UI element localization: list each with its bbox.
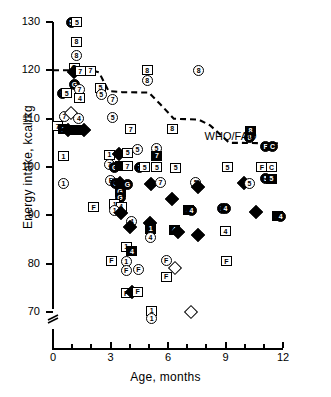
- data-point-marker-ci: 1: [58, 178, 69, 189]
- marker-label: 4: [148, 234, 152, 241]
- data-point-marker-ci: 4: [275, 211, 286, 222]
- marker-label: F: [109, 257, 113, 264]
- data-point-marker-ci: 4: [220, 203, 231, 214]
- marker-label: 1: [108, 151, 112, 158]
- marker-label: F: [136, 288, 140, 295]
- who-fao-annotation-label: WHO/FAO: [205, 131, 257, 142]
- marker-label: 4: [279, 213, 283, 220]
- marker-label: C: [269, 164, 274, 171]
- marker-label: 5: [135, 146, 139, 153]
- marker-label: 5: [126, 149, 130, 156]
- data-point-marker-sq: 7: [151, 151, 162, 161]
- marker-label: F: [164, 257, 168, 264]
- marker-label: 7: [88, 67, 92, 74]
- data-point-marker-ci: 5: [244, 178, 255, 189]
- marker-label: 8: [197, 67, 201, 74]
- data-point-marker-ci: 7: [107, 94, 118, 105]
- marker-label: 1: [150, 315, 154, 322]
- data-point-marker-ci: 8: [71, 50, 82, 61]
- marker-label: F: [260, 164, 264, 171]
- energy-intake-scatter-chart: 708090100110120130 036912 5588G77G557554…: [0, 0, 331, 397]
- marker-label: 4: [189, 207, 193, 214]
- data-point-marker-di: [191, 228, 205, 242]
- marker-label: 4: [130, 248, 134, 255]
- marker-label: C: [270, 143, 275, 150]
- marker-label: 7: [77, 86, 81, 93]
- marker-label: 5: [75, 19, 79, 26]
- marker-label: 5: [174, 164, 178, 171]
- marker-label: F: [91, 204, 95, 211]
- marker-label: 5: [111, 114, 115, 121]
- marker-label: 8: [170, 125, 174, 132]
- data-point-marker-sq: 5: [170, 163, 181, 173]
- data-point-marker-ci: 4: [186, 205, 197, 216]
- data-point-marker-sq: 5: [151, 162, 162, 172]
- data-point-marker-ci: 4: [73, 113, 84, 124]
- marker-label: 8: [74, 52, 78, 59]
- marker-label: 5: [225, 164, 229, 171]
- data-point-marker-sq: 7: [85, 66, 96, 76]
- marker-label: 7: [125, 163, 129, 170]
- marker-label: 1: [62, 153, 66, 160]
- marker-label: 8: [145, 67, 149, 74]
- data-point-marker-sq: F: [221, 256, 232, 266]
- marker-label: 4: [224, 228, 228, 235]
- marker-label: 5: [143, 164, 147, 171]
- marker-label: 1: [124, 258, 128, 265]
- marker-label: 4: [224, 205, 228, 212]
- data-point-marker-ci: 8: [193, 65, 204, 76]
- data-point-marker-ci: C: [267, 141, 278, 152]
- data-point-marker-ci: 5: [96, 89, 107, 100]
- data-point-marker-sq: F: [132, 287, 143, 297]
- y-axis-title: Energy intake, kcal/kg: [21, 67, 35, 267]
- marker-label: 8: [145, 77, 149, 84]
- data-point-marker-sq: 5: [266, 174, 277, 184]
- marker-label: 7: [111, 96, 115, 103]
- data-point-marker-sq: 1: [58, 151, 69, 161]
- data-point-marker-sq: 5: [61, 88, 72, 98]
- marker-label: 4: [77, 115, 81, 122]
- data-point-marker-sq: 8: [142, 65, 153, 75]
- marker-label: 5: [65, 90, 69, 97]
- marker-label: 5: [270, 175, 274, 182]
- data-point-marker-ci: 8: [142, 75, 153, 86]
- data-point-marker-sq: 5: [139, 162, 150, 172]
- marker-label: 7: [158, 179, 162, 186]
- data-point-marker-ci: 4: [145, 232, 156, 243]
- marker-label: 4: [78, 95, 82, 102]
- data-point-marker-sq: 4: [74, 93, 85, 103]
- marker-label: F: [164, 273, 168, 280]
- data-point-marker-sq: F: [161, 272, 172, 282]
- marker-label: 7: [78, 68, 82, 75]
- data-point-marker-ci: 7: [155, 177, 166, 188]
- data-point-marker-ci: F: [121, 265, 132, 276]
- marker-label: 5: [155, 164, 159, 171]
- data-point-marker-di: [249, 205, 263, 219]
- marker-label: F: [124, 267, 128, 274]
- data-point-marker-sq: 7: [125, 124, 136, 134]
- x-axis-title: Age, months: [0, 370, 331, 384]
- data-point-marker-sq: 8: [71, 37, 82, 47]
- data-point-marker-di: [165, 192, 179, 206]
- data-point-marker-sq: 8: [167, 124, 178, 134]
- data-point-marker-sq: C: [266, 162, 277, 172]
- marker-label: 1: [62, 180, 66, 187]
- data-point-marker-ci: F: [133, 264, 144, 275]
- marker-label: 5: [99, 91, 103, 98]
- data-point-marker-sq: 5: [71, 17, 82, 27]
- data-point-marker-ci: 1: [146, 313, 157, 324]
- data-point-marker-sq: 7: [122, 161, 133, 171]
- data-point-marker-sq: 4: [126, 246, 137, 256]
- data-points-layer: 5588G77G5575547754718887888FC1155577G775…: [0, 0, 331, 397]
- data-point-marker-sq: 5: [222, 162, 233, 172]
- marker-label: F: [224, 258, 228, 265]
- marker-label: 5: [248, 180, 252, 187]
- marker-label: 7: [155, 152, 159, 159]
- data-point-marker-ci: 5: [107, 112, 118, 123]
- data-point-marker-ci: 5: [132, 144, 143, 155]
- data-point-marker-sq: F: [88, 202, 99, 212]
- marker-label: F: [136, 266, 140, 273]
- marker-label: 8: [74, 38, 78, 45]
- data-point-marker-sq: 4: [220, 226, 231, 236]
- marker-label: 7: [129, 126, 133, 133]
